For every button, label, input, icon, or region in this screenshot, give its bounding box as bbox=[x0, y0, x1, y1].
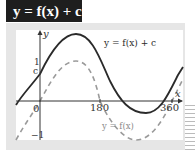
origin-label: 0 bbox=[33, 103, 39, 114]
y-axis-label: y bbox=[42, 28, 49, 39]
diagram-panel: y x 1 c −1 0 180 360 y = f(x) + c y = f(… bbox=[6, 23, 185, 150]
plot-area bbox=[16, 30, 183, 140]
page-title: y = f(x) + c bbox=[6, 0, 82, 22]
curve-f-plus-c-label: y = f(x) + c bbox=[103, 38, 156, 48]
curve-f-label: y = f(x) bbox=[101, 121, 134, 131]
c-label: c bbox=[33, 66, 38, 76]
graph: y x 1 c −1 0 180 360 y = f(x) + c y = f(… bbox=[6, 23, 185, 150]
page-edge-marks bbox=[185, 105, 195, 150]
x-tick-360: 360 bbox=[160, 102, 179, 113]
x-axis-label: x bbox=[175, 88, 181, 99]
x-tick-180: 180 bbox=[90, 102, 109, 113]
y-tick-minus-1: −1 bbox=[31, 130, 44, 140]
